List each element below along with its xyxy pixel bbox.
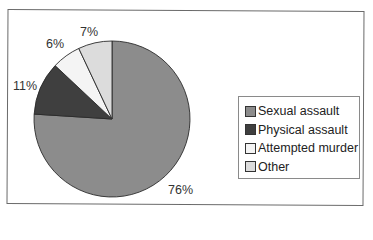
legend-label: Physical assault <box>258 123 348 137</box>
legend-item-attempted-murder: Attempted murder <box>245 139 359 158</box>
label-other: 7% <box>80 25 98 39</box>
swatch-physical-assault <box>245 124 256 135</box>
label-attempted-murder: 6% <box>46 37 64 51</box>
legend-label: Other <box>258 160 289 174</box>
legend-item-other: Other <box>245 158 359 177</box>
legend-item-sexual-assault: Sexual assault <box>245 102 359 121</box>
legend: Sexual assault Physical assault Attempte… <box>238 96 360 179</box>
label-physical-assault: 11% <box>13 79 37 93</box>
swatch-attempted-murder <box>245 143 256 154</box>
legend-label: Sexual assault <box>258 104 339 118</box>
legend-label: Attempted murder <box>258 141 358 155</box>
swatch-sexual-assault <box>245 106 256 117</box>
label-sexual-assault: 76% <box>168 183 193 197</box>
legend-item-physical-assault: Physical assault <box>245 121 359 140</box>
swatch-other <box>245 161 256 172</box>
